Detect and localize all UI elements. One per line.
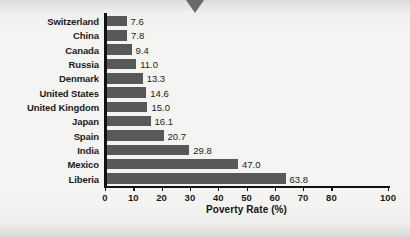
x-axis-tick-label: 50 [241,192,252,203]
bar-value-label: 20.7 [168,130,187,141]
bar [105,116,151,127]
x-axis-tick [247,186,248,191]
plot-area: Switzerland7.6China7.8Canada9.4Russia11.… [105,14,388,186]
bar [105,59,136,70]
bar [105,44,132,55]
category-label: Canada [65,44,99,55]
category-label: United States [40,87,99,98]
bar [105,87,146,98]
x-axis-tick [105,186,106,191]
bar [105,159,238,170]
bar-row: United Kingdom15.0 [105,100,388,114]
category-label: Spain [74,130,99,141]
bar-value-label: 47.0 [242,159,261,170]
bar-value-label: 15.0 [151,102,170,113]
x-axis-title: Poverty Rate (%) [105,204,388,215]
category-label: United Kingdom [27,102,99,113]
category-label: Japan [72,116,99,127]
bar-value-label: 7.6 [131,16,144,27]
category-label: Russia [68,59,99,70]
bar-value-label: 16.1 [155,116,174,127]
bar-value-label: 9.4 [136,44,149,55]
x-axis-tick-label: 70 [298,192,309,203]
bar [105,30,127,41]
bar [105,16,127,27]
poverty-rate-bar-chart: Switzerland7.6China7.8Canada9.4Russia11.… [0,0,410,238]
bar-value-label: 13.3 [147,73,166,84]
bar-row: Japan16.1 [105,114,388,128]
category-label: Switzerland [47,16,99,27]
bar [105,130,164,141]
bar [105,102,147,113]
category-label: China [73,30,99,41]
bar-row: Switzerland7.6 [105,14,388,28]
x-axis-tick [133,186,134,191]
x-axis-tick [190,186,191,191]
x-axis-tick-label: 80 [326,192,337,203]
bar-row: Liberia63.8 [105,172,388,186]
x-axis-tick [275,186,276,191]
x-axis-tick [218,186,219,191]
bar-row: India29.8 [105,143,388,157]
x-axis-tick-label: 0 [102,192,107,203]
category-label: Denmark [59,73,99,84]
x-axis-tick-label: 20 [156,192,167,203]
bar [105,173,286,184]
x-axis-tick-label: 100 [380,192,396,203]
x-axis-tick-label: 10 [128,192,139,203]
bar-row: Russia11.0 [105,57,388,71]
x-axis-tick [331,186,332,191]
bar-row: Spain20.7 [105,129,388,143]
bar-value-label: 11.0 [140,59,158,70]
bar-row: Canada9.4 [105,43,388,57]
bar-value-label: 63.8 [290,173,309,184]
x-axis-tick [162,186,163,191]
bar-row: Denmark13.3 [105,71,388,85]
bar [105,145,189,156]
bar-row: Mexico47.0 [105,157,388,171]
bar-value-label: 14.6 [150,87,169,98]
x-axis-tick-label: 40 [213,192,224,203]
x-axis-tick [388,186,389,191]
category-label: Liberia [69,173,99,184]
bar-row: United States14.6 [105,86,388,100]
x-axis-tick-label: 60 [270,192,281,203]
bar-value-label: 7.8 [131,30,144,41]
bar-row: China7.8 [105,28,388,42]
bar [105,73,143,84]
category-label: India [77,145,99,156]
category-label: Mexico [67,159,99,170]
bar-value-label: 29.8 [193,145,212,156]
x-axis-tick [303,186,304,191]
y-axis-line [104,13,107,187]
x-axis-tick-label: 30 [185,192,196,203]
